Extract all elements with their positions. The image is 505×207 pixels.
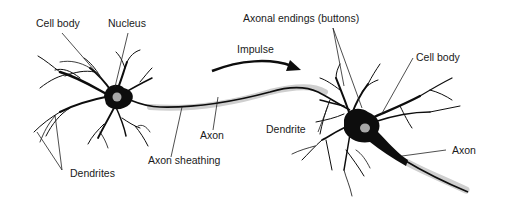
label-cell-body-left: Cell body bbox=[36, 18, 80, 29]
axon bbox=[130, 88, 350, 111]
impulse-arrow bbox=[212, 61, 292, 71]
label-nucleus: Nucleus bbox=[108, 18, 146, 29]
impulse-arrowhead-icon bbox=[286, 60, 301, 71]
label-cell-body-right: Cell body bbox=[416, 52, 460, 63]
label-axon-sheathing: Axon sheathing bbox=[148, 155, 220, 166]
label-axon-right: Axon bbox=[452, 145, 476, 156]
label-impulse: Impulse bbox=[237, 44, 274, 55]
label-dendrites: Dendrites bbox=[70, 168, 115, 179]
label-axon: Axon bbox=[200, 130, 224, 141]
right-cell-body bbox=[344, 109, 408, 166]
left-nucleus bbox=[113, 93, 122, 102]
right-nucleus bbox=[360, 124, 370, 133]
left-neuron-dendrites bbox=[34, 50, 152, 148]
neuron-diagram: Cell body Nucleus Dendrites Axon Axon sh… bbox=[0, 0, 505, 207]
label-axonal-endings: Axonal endings (buttons) bbox=[243, 13, 359, 24]
axon-sheath-left bbox=[150, 88, 325, 108]
label-dendrite: Dendrite bbox=[266, 124, 306, 135]
